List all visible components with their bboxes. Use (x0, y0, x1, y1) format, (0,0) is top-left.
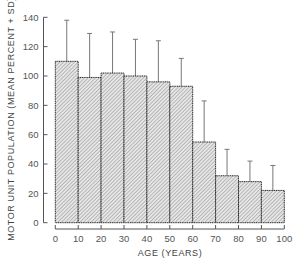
x-tick-label: 50 (165, 233, 176, 244)
motor-unit-age-histogram: 020406080100120140 010203040506070809010… (0, 0, 299, 264)
y-tick-label: 20 (28, 188, 39, 199)
y-tick-label: 0 (33, 217, 38, 228)
y-tick-label: 120 (23, 41, 39, 52)
bars (55, 61, 284, 222)
error-bar (110, 32, 115, 73)
x-tick-label: 40 (142, 233, 153, 244)
bar-70-80 (216, 176, 239, 223)
bar-40-50 (147, 82, 170, 223)
error-bar (156, 41, 161, 82)
error-bar (64, 20, 69, 61)
bar-10-20 (78, 77, 101, 222)
error-bar (270, 165, 275, 190)
y-tick-label: 100 (23, 70, 39, 81)
x-tick-label: 100 (276, 233, 292, 244)
bar-30-40 (124, 76, 147, 223)
x-axis: 0102030405060708090100 (53, 225, 293, 244)
bar-0-10 (55, 61, 78, 222)
x-tick-label: 0 (53, 233, 58, 244)
x-tick-label: 60 (187, 233, 198, 244)
x-tick-label: 90 (256, 233, 267, 244)
bar-80-90 (239, 182, 262, 223)
y-tick-label: 40 (28, 158, 39, 169)
x-axis-title: AGE (YEARS) (138, 248, 203, 258)
error-bar (202, 101, 207, 142)
x-tick-label: 30 (119, 233, 130, 244)
bar-20-30 (101, 73, 124, 223)
y-tick-label: 60 (28, 129, 39, 140)
y-tick-label: 140 (23, 12, 39, 23)
y-axis-title: MOTOR UNIT POPULATION (MEAN PERCENT + SD… (6, 0, 16, 241)
x-tick-label: 70 (210, 233, 221, 244)
bar-60-70 (193, 142, 216, 223)
error-bar (87, 33, 92, 77)
error-bar (133, 39, 138, 76)
x-tick-label: 10 (73, 233, 84, 244)
bar-50-60 (170, 86, 193, 222)
bar-90-100 (261, 190, 284, 222)
y-axis: 020406080100120140 (23, 12, 48, 228)
x-tick-label: 20 (96, 233, 107, 244)
y-tick-label: 80 (28, 100, 39, 111)
error-bar (247, 161, 252, 182)
error-bar (225, 149, 230, 175)
x-tick-label: 80 (233, 233, 244, 244)
error-bar (179, 58, 184, 86)
